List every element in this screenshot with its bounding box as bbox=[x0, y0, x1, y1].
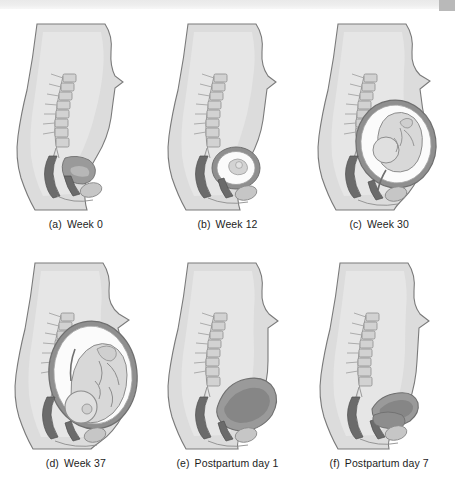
panel-caption-c: (c)Week 30 bbox=[349, 218, 409, 230]
panel-label-c: Week 30 bbox=[367, 218, 409, 230]
panel-caption-b: (b)Week 12 bbox=[197, 218, 257, 230]
figure-root: (a)Week 0 bbox=[0, 0, 455, 500]
panel-letter-a: (a) bbox=[49, 218, 62, 230]
fetal-head-d bbox=[65, 391, 97, 423]
panel-e: (e)Postpartum day 1 bbox=[152, 257, 304, 496]
panel-caption-f: (f)Postpartum day 7 bbox=[330, 457, 429, 469]
illustration-week-37 bbox=[1, 257, 151, 453]
panel-label-f: Postpartum day 7 bbox=[345, 457, 429, 469]
panel-a: (a)Week 0 bbox=[0, 18, 152, 257]
panel-caption-d: (d)Week 37 bbox=[46, 457, 106, 469]
illustration-week-30 bbox=[304, 18, 454, 214]
panel-letter-b: (b) bbox=[197, 218, 210, 230]
panel-caption-e: (e)Postpartum day 1 bbox=[176, 457, 278, 469]
panel-letter-e: (e) bbox=[176, 457, 189, 469]
panel-label-e: Postpartum day 1 bbox=[195, 457, 279, 469]
panel-letter-f: (f) bbox=[330, 457, 340, 469]
panel-grid: (a)Week 0 bbox=[0, 18, 455, 496]
panel-label-b: Week 12 bbox=[216, 218, 258, 230]
panel-letter-d: (d) bbox=[46, 457, 59, 469]
illustration-week-0 bbox=[1, 18, 151, 214]
illustration-week-12 bbox=[152, 18, 302, 214]
panel-d: (d)Week 37 bbox=[0, 257, 152, 496]
scan-artifact-band bbox=[0, 0, 455, 9]
illustration-postpartum-day-1 bbox=[152, 257, 302, 453]
panel-label-d: Week 37 bbox=[64, 457, 106, 469]
panel-label-a: Week 0 bbox=[67, 218, 103, 230]
panel-f: (f)Postpartum day 7 bbox=[303, 257, 455, 496]
pelvic-organs-a bbox=[44, 156, 103, 201]
illustration-postpartum-day-7 bbox=[304, 257, 454, 453]
panel-letter-c: (c) bbox=[349, 218, 362, 230]
panel-b: (b)Week 12 bbox=[152, 18, 304, 257]
scan-artifact-corner bbox=[439, 0, 455, 11]
panel-c: (c)Week 30 bbox=[303, 18, 455, 257]
panel-caption-a: (a)Week 0 bbox=[49, 218, 103, 230]
fetal-head-c bbox=[373, 137, 399, 163]
